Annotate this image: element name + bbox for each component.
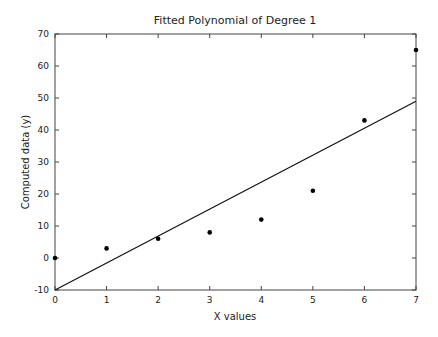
x-tick-label: 2: [155, 295, 161, 305]
y-tick-label: 10: [38, 221, 50, 231]
x-tick-label: 1: [104, 295, 110, 305]
fitted-line: [55, 101, 416, 290]
y-tick-label: 0: [43, 253, 49, 263]
x-axis-label: X values: [214, 311, 257, 322]
y-tick-label: 20: [38, 189, 50, 199]
y-axis-label: Computed data (y): [20, 115, 31, 210]
plot-frame: [55, 34, 416, 290]
y-tick-label: 60: [38, 61, 50, 71]
data-point: [311, 189, 316, 194]
y-tick-label: -10: [34, 285, 49, 295]
x-tick-label: 6: [362, 295, 368, 305]
plot-area: 01234567-10010203040506070: [34, 29, 419, 305]
data-point: [414, 48, 419, 53]
data-point: [104, 246, 109, 251]
data-point: [259, 217, 264, 222]
x-tick-label: 3: [207, 295, 213, 305]
data-point: [207, 230, 212, 235]
y-tick-label: 50: [38, 93, 50, 103]
x-tick-label: 5: [310, 295, 316, 305]
data-point: [53, 256, 58, 261]
chart-title: Fitted Polynomial of Degree 1: [154, 14, 316, 27]
y-tick-label: 40: [38, 125, 50, 135]
x-tick-label: 4: [258, 295, 264, 305]
chart: Fitted Polynomial of Degree 1 01234567-1…: [0, 0, 438, 337]
y-tick-label: 30: [38, 157, 50, 167]
data-point: [362, 118, 367, 123]
x-tick-label: 0: [52, 295, 58, 305]
x-tick-label: 7: [413, 295, 419, 305]
y-tick-label: 70: [38, 29, 50, 39]
